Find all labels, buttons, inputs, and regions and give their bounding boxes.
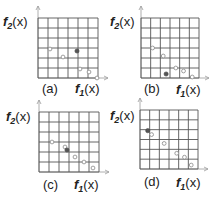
hollow-point [189,163,193,167]
hollow-point [175,151,179,155]
hollow-point [50,140,54,144]
y-axis-label: f2(x) [110,108,135,125]
scatter-plot-c [39,112,99,172]
filled-point [75,49,79,53]
caption-a: (a) [42,81,58,96]
filled-point [65,148,69,152]
hollow-point [174,66,178,70]
filled-point [164,72,168,76]
hollow-point [183,155,187,159]
y-axis-label: f2(x) [6,109,31,126]
hollow-point [48,47,52,51]
hollow-point [95,76,99,80]
hollow-point [151,46,155,50]
hollow-point [91,166,95,170]
hollow-point [182,69,186,73]
y-axis-label: f2(x) [3,14,28,31]
hollow-point [61,55,65,59]
scatter-plot-b [141,18,199,78]
caption-c: (c) [43,177,58,192]
filled-point [146,129,150,133]
hollow-point [150,133,154,137]
hollow-point [87,70,91,74]
scatter-plot-d [140,110,198,169]
x-axis-label: f1(x) [75,81,100,98]
scatter-plot-a [38,18,98,78]
hollow-point [82,160,86,164]
hollow-point [78,67,82,71]
y-axis-label: f2(x) [110,14,135,31]
caption-b: (b) [144,81,160,96]
x-axis-label: f1(x) [176,175,201,192]
x-axis-label: f1(x) [176,82,201,99]
x-axis-label: f1(x) [74,177,99,194]
hollow-point [161,54,165,58]
caption-d: (d) [144,174,160,189]
hollow-point [190,75,194,79]
hollow-point [73,155,77,159]
hollow-point [162,142,166,146]
